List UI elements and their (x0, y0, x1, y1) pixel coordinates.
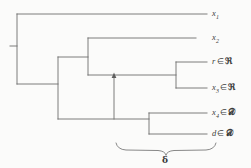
element-of-icon: ∈ (219, 108, 228, 117)
leaf-subscript-x2: 2 (216, 38, 219, 44)
real-set-symbol: ℜ (225, 56, 232, 66)
leaf-label-x1: x1 (212, 8, 219, 20)
domain-set-symbol: 𝒟 (226, 128, 233, 138)
leaf-label-x2: x2 (212, 32, 219, 44)
brace-right-half (166, 143, 216, 155)
leaf-var-r: r (212, 56, 216, 66)
brace-label-delta: δ (162, 155, 168, 165)
leaf-label-x4-in-D: x4∈𝒟 (212, 107, 236, 119)
domain-set-symbol: 𝒟 (228, 107, 235, 117)
element-of-icon: ∈ (216, 129, 225, 138)
brace-left-half (116, 143, 166, 155)
real-set-symbol: ℜ (228, 82, 235, 92)
element-of-icon: ∈ (216, 57, 225, 66)
element-of-icon: ∈ (219, 83, 228, 92)
dendrogram-figure: x1 x2 r∈ℜ x3∈ℜ x4∈𝒟 d∈𝒟 δ (0, 0, 251, 168)
leaf-label-r-in-R: r∈ℜ (212, 56, 232, 66)
leaf-label-x3-in-R: x3∈ℜ (212, 82, 236, 94)
leaf-label-d-in-D: d∈𝒟 (212, 128, 233, 139)
leaf-subscript-x1: 1 (216, 14, 219, 20)
